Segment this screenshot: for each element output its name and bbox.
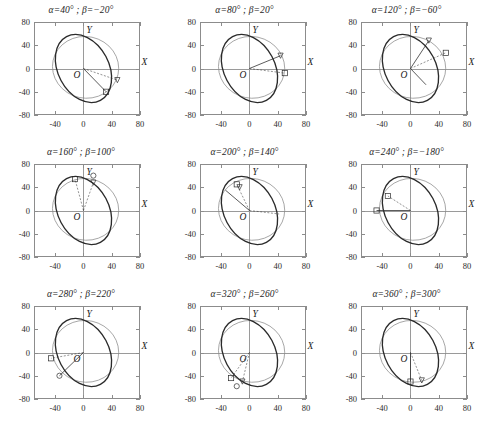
- vector-0: [231, 353, 249, 379]
- x-axis-label: X: [307, 341, 313, 351]
- y-tick-label: 0: [174, 64, 196, 74]
- y-tick: [463, 115, 467, 116]
- y-tick-label: 0: [174, 206, 196, 216]
- y-tick: [34, 399, 38, 400]
- x-tick-label: 40: [267, 119, 289, 129]
- x-tick: [306, 164, 307, 168]
- y-tick-label: -80: [8, 110, 30, 120]
- x-tick-label: 80: [129, 403, 151, 413]
- circle-marker: [234, 384, 239, 389]
- figure-panel-grid: α=40° ; β=−20°-400408080400-40-80XYOα=80…: [0, 0, 486, 426]
- x-tick-label: 0: [399, 119, 421, 129]
- x-axis-label: X: [468, 341, 474, 351]
- x-axis-label: X: [141, 341, 147, 351]
- y-tick-label: 0: [8, 348, 30, 358]
- y-tick-label: 80: [174, 159, 196, 169]
- plot-area: -400408080400-40-80XYO: [200, 164, 306, 257]
- x-tick: [140, 164, 141, 168]
- y-tick-label: -40: [8, 87, 30, 97]
- y-tick: [302, 115, 306, 116]
- x-tick-label: 0: [399, 261, 421, 271]
- y-tick-label: 0: [8, 64, 30, 74]
- x-tick-label: -40: [44, 119, 66, 129]
- y-tick-label: 80: [335, 301, 357, 311]
- x-tick-label: 40: [428, 261, 450, 271]
- y-tick: [361, 399, 365, 400]
- x-tick-label: -40: [210, 119, 232, 129]
- x-tick-label: 40: [101, 403, 123, 413]
- curve-layer: [361, 164, 467, 257]
- x-tick: [467, 253, 468, 257]
- y-tick: [136, 257, 140, 258]
- reference-ellipse: [374, 314, 452, 388]
- y-tick-label: 80: [335, 159, 357, 169]
- y-tick-label: 80: [174, 17, 196, 27]
- x-tick-label: 0: [72, 403, 94, 413]
- y-tick: [302, 399, 306, 400]
- y-tick-label: -80: [335, 394, 357, 404]
- y-tick-label: 40: [174, 324, 196, 334]
- x-tick-label: 40: [101, 261, 123, 271]
- curve-layer: [361, 306, 467, 399]
- x-tick: [306, 22, 307, 26]
- curve-layer: [34, 306, 140, 399]
- x-tick-label: 80: [129, 119, 151, 129]
- y-tick: [34, 257, 38, 258]
- y-tick-label: 80: [335, 17, 357, 27]
- plot-panel-2: α=120° ; β=−60°-400408080400-40-80XYO: [327, 0, 486, 142]
- y-tick-label: 0: [335, 64, 357, 74]
- curve-layer: [361, 22, 467, 115]
- vector-2: [249, 211, 279, 214]
- y-tick-label: 0: [174, 348, 196, 358]
- y-tick-label: -40: [174, 371, 196, 381]
- y-tick-label: 0: [8, 206, 30, 216]
- x-tick-label: -40: [371, 403, 393, 413]
- reference-ellipse: [213, 172, 291, 246]
- y-tick-label: 80: [8, 17, 30, 27]
- vector-1: [75, 179, 83, 210]
- plot-area: -400408080400-40-80XYO: [34, 22, 140, 115]
- x-tick-label: 80: [456, 403, 478, 413]
- vector-0: [388, 196, 411, 211]
- plot-area: -400408080400-40-80XYO: [361, 22, 467, 115]
- curve-layer: [200, 22, 306, 115]
- x-tick-label: 40: [101, 119, 123, 129]
- x-tick-label: 80: [456, 119, 478, 129]
- plot-panel-7: α=320° ; β=260°-400408080400-40-80XYO: [162, 284, 327, 426]
- x-tick: [467, 306, 468, 310]
- x-tick-label: 0: [72, 261, 94, 271]
- y-tick-label: -40: [8, 229, 30, 239]
- y-tick: [34, 115, 38, 116]
- vector-1: [59, 353, 83, 376]
- x-tick-label: 80: [295, 119, 317, 129]
- y-tick: [136, 399, 140, 400]
- x-tick: [467, 111, 468, 115]
- y-tick-label: -40: [174, 229, 196, 239]
- circle-marker: [91, 173, 96, 178]
- x-axis-label: X: [468, 57, 474, 67]
- plot-panel-8: α=360° ; β=300°-400408080400-40-80XYO: [327, 284, 486, 426]
- x-tick-label: 80: [295, 261, 317, 271]
- y-tick-label: 40: [8, 40, 30, 50]
- y-tick-label: -80: [174, 110, 196, 120]
- y-tick: [302, 257, 306, 258]
- x-tick: [467, 164, 468, 168]
- plot-panel-3: α=160° ; β=100°-400408080400-40-80XYO: [0, 142, 162, 284]
- panel-title: α=320° ; β=260°: [162, 289, 327, 299]
- plot-area: -400408080400-40-80XYO: [361, 164, 467, 257]
- x-tick-label: 0: [399, 403, 421, 413]
- y-tick-label: -40: [8, 371, 30, 381]
- y-tick-label: 40: [174, 182, 196, 192]
- curve-layer: [200, 306, 306, 399]
- y-tick-label: 0: [335, 206, 357, 216]
- x-tick-label: 80: [295, 403, 317, 413]
- x-tick-label: -40: [210, 403, 232, 413]
- y-tick-label: 40: [8, 182, 30, 192]
- panel-title: α=40° ; β=−20°: [0, 5, 162, 15]
- x-tick: [140, 306, 141, 310]
- x-tick: [140, 111, 141, 115]
- x-tick: [467, 395, 468, 399]
- y-tick-label: 40: [335, 40, 357, 50]
- curve-layer: [34, 164, 140, 257]
- plot-panel-5: α=240° ; β=−180°-400408080400-40-80XYO: [327, 142, 486, 284]
